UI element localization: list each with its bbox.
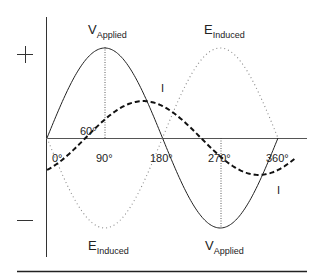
tick-label-270: 270° bbox=[208, 152, 231, 164]
current-label-bottom: I bbox=[277, 184, 280, 196]
current-label-top: I bbox=[161, 82, 164, 94]
plus-sign-icon bbox=[17, 46, 33, 63]
tick-label-180: 180° bbox=[150, 152, 173, 164]
v-applied-bottom-label: VApplied bbox=[205, 238, 244, 256]
tick-label-90: 90° bbox=[96, 152, 113, 164]
e-induced-bottom-label: EInduced bbox=[88, 238, 129, 256]
e-induced-top-label: EInduced bbox=[204, 22, 245, 40]
tick-label-360: 360° bbox=[266, 152, 289, 164]
ac-phase-diagram: VApplied EInduced EInduced VApplied I I … bbox=[0, 0, 323, 274]
phase-angle-label: 60° bbox=[80, 125, 97, 137]
tick-label-0: 0° bbox=[52, 152, 63, 164]
v-applied-top-label: VApplied bbox=[88, 22, 127, 40]
